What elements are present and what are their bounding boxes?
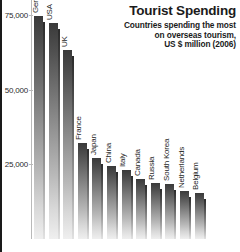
bar-category-label: South Korea (162, 139, 171, 181)
bar-category-label: Russia (147, 157, 156, 180)
y-axis-tick-label: 75,000 (5, 10, 28, 19)
bar-shadow (43, 22, 45, 239)
tourist-spending-chart: Tourist Spending Countries spending the … (0, 0, 240, 252)
bar (122, 170, 131, 239)
bar (107, 166, 116, 239)
bar-shadow (116, 172, 118, 239)
bar (136, 179, 145, 239)
bar (34, 16, 43, 239)
bar-shadow (58, 29, 60, 239)
y-axis-tick (29, 90, 33, 91)
bar (180, 191, 189, 239)
bar-shadow (72, 56, 74, 239)
bar-shadow (87, 149, 89, 239)
bar-category-label: Japan (89, 135, 98, 156)
bar-shadow (145, 185, 147, 239)
bar-shadow (160, 189, 162, 239)
bar-category-label: Belgium (191, 162, 200, 190)
bar (151, 183, 160, 239)
bar-category-label: Canada (133, 149, 142, 176)
bar (92, 158, 101, 239)
y-axis-tick-label: 50,000 (5, 85, 28, 94)
y-axis-tick-label: 25,000 (5, 160, 28, 169)
bar (63, 50, 72, 239)
bar-category-label: China (104, 143, 113, 163)
bar-category-label: Netherlands (177, 147, 186, 188)
bar (49, 23, 58, 239)
bar-category-label: UK (60, 36, 69, 47)
plot-area: GermanyUSAUKFranceJapanChinaItalyCanadaR… (31, 0, 240, 239)
bar-shadow (204, 199, 206, 239)
bar (195, 193, 204, 239)
bar-shadow (131, 176, 133, 239)
y-axis-tick (29, 164, 33, 165)
y-axis-tick (29, 15, 33, 16)
bar-category-label: USA (45, 4, 54, 20)
bar-shadow (189, 197, 191, 239)
bar-shadow (174, 190, 176, 239)
bar-category-label: Italy (118, 153, 127, 167)
bars-layer: GermanyUSAUKFranceJapanChinaItalyCanadaR… (34, 0, 240, 239)
bar-category-label: France (74, 116, 83, 140)
bar-category-label: Germany (31, 0, 40, 13)
bar-shadow (101, 164, 103, 239)
bar (165, 184, 174, 239)
bar (78, 143, 87, 239)
